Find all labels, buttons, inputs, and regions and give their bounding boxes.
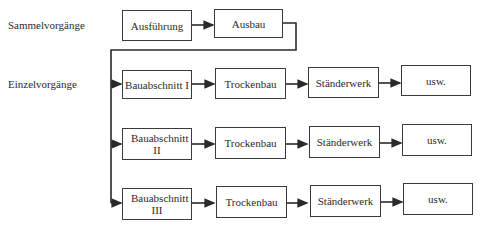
box-row3-usw: usw.	[403, 183, 473, 215]
box-row2-trockenbau: Trockenbau	[215, 127, 286, 159]
box-row2-staenderwerk: Ständerwerk	[309, 126, 380, 158]
box-row1-trockenbau: Trockenbau	[215, 68, 286, 99]
box-bauabschnitt-2: Bauabschnitt II	[122, 128, 192, 160]
label-sammelvorgaenge: Sammelvorgänge	[8, 19, 85, 31]
box-row3-trockenbau: Trockenbau	[216, 186, 287, 218]
box-row3-staenderwerk: Ständerwerk	[310, 185, 381, 217]
box-row2-usw: usw.	[402, 124, 472, 156]
box-bauabschnitt-3-text: Bauabschnitt III	[131, 192, 183, 216]
box-bauabschnitt-2-text: Bauabschnitt II	[131, 132, 183, 156]
box-row1-usw: usw.	[401, 65, 471, 96]
box-bauabschnitt-1: Bauabschnitt I	[122, 70, 192, 99]
box-row1-staenderwerk: Ständerwerk	[308, 67, 379, 98]
box-bauabschnitt-3: Bauabschnitt III	[122, 188, 192, 220]
box-ausbau: Ausbau	[214, 9, 283, 38]
box-ausfuehrung: Ausführung	[122, 10, 192, 41]
label-einzelvorgaenge: Einzelvorgänge	[8, 78, 77, 90]
